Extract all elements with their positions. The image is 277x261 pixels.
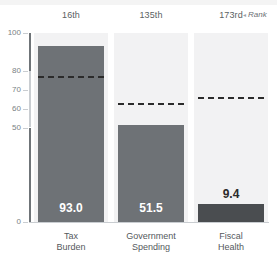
category-label-line: Burden [26,242,116,253]
reference-line-0 [38,76,104,78]
rank-label-government-spending: 135th [114,6,188,24]
value-label-2: 9.4 [198,188,264,200]
y-axis-tick-label-70: 70 [0,86,21,94]
reference-line-2 [198,97,264,99]
y-axis-tick-label-50: 50 [0,124,21,132]
value-label-0: 93.0 [38,202,104,214]
y-axis-tick-mark-50 [23,128,28,129]
y-axis-tick-label-60: 60 [0,105,21,113]
bar-fiscal-health[interactable] [198,204,264,222]
category-label-government-spending: GovernmentSpending [106,231,196,253]
rank-bar-chart: 16th 135th 173rd ◂Rank 05060708010093.05… [0,0,277,261]
y-axis-spine-middle [29,71,31,128]
category-label-line: Health [186,242,276,253]
y-axis-tick-label-100: 100 [0,29,21,37]
category-label-line: Fiscal [186,231,276,242]
y-axis-tick-mark-70 [23,90,28,91]
category-label-line: Tax [26,231,116,242]
category-label-tax-burden: TaxBurden [26,231,116,253]
y-axis-tick-label-0: 0 [0,218,21,226]
rank-legend: ◂Rank [243,6,267,24]
value-label-1: 51.5 [118,202,184,214]
y-axis-tick-mark-80 [23,71,28,72]
category-label-line: Government [106,231,196,242]
y-axis-tick-mark-0 [23,222,28,223]
top-band [0,0,277,5]
y-axis-tick-mark-100 [23,33,28,34]
category-row: TaxBurden GovernmentSpending FiscalHealt… [0,231,277,261]
rank-legend-label: Rank [248,10,267,19]
y-axis-spine-upper [29,33,31,71]
x-axis-baseline [29,222,269,223]
y-axis-tick-label-80: 80 [0,67,21,75]
rank-label-tax-burden: 16th [34,6,108,24]
bar-tax-burden[interactable] [38,46,104,222]
plot-area: 05060708010093.051.59.4 [0,28,277,228]
rank-row: 16th 135th 173rd ◂Rank [0,6,277,24]
y-axis-tick-mark-60 [23,109,28,110]
reference-line-1 [118,103,184,105]
category-label-fiscal-health: FiscalHealth [186,231,276,253]
left-caret-icon: ◂ [243,6,246,24]
y-axis-spine-lower [29,128,31,223]
category-label-line: Spending [106,242,196,253]
